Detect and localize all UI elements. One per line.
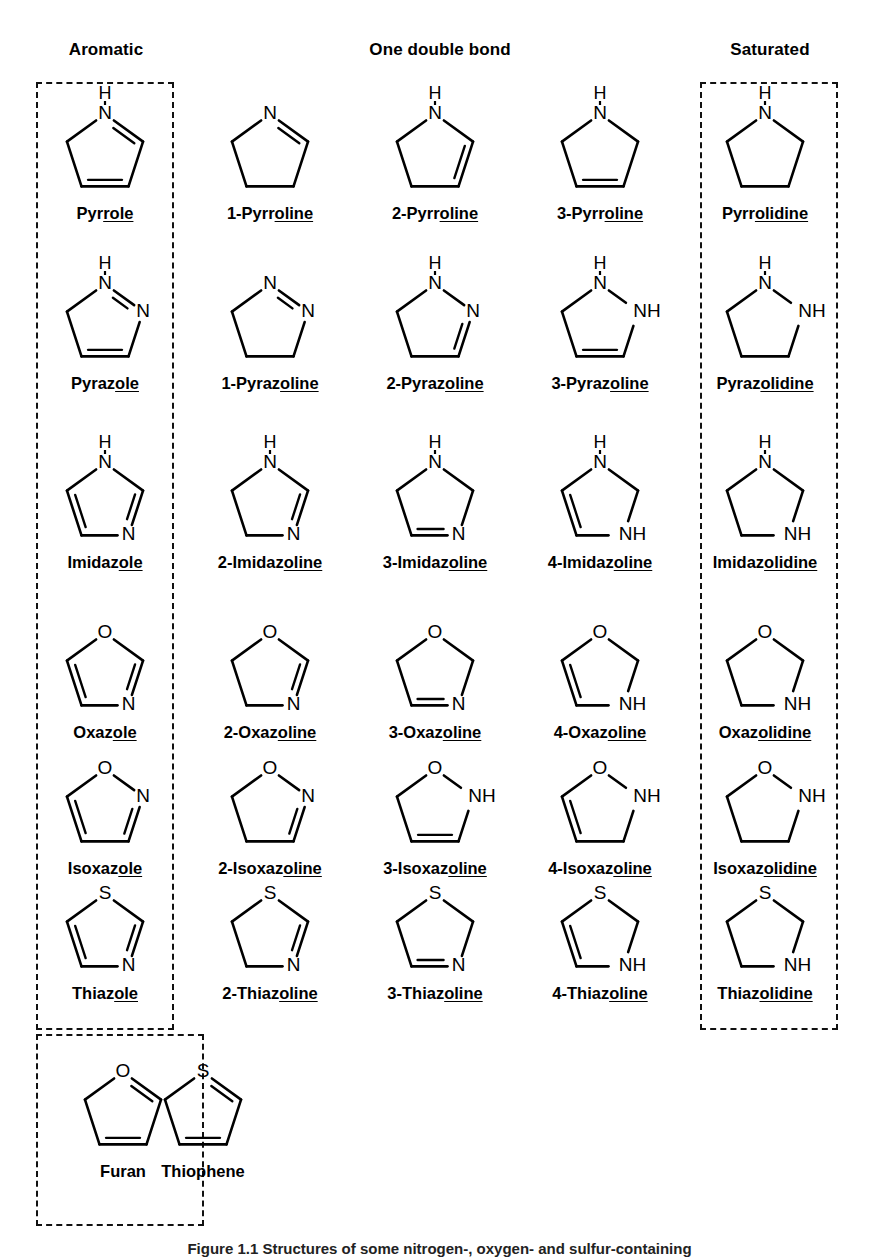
- molecule-structure-imidazole: NNH: [20, 437, 190, 555]
- bond-v4-v5: [232, 142, 247, 187]
- bond-v4-v5: [85, 1100, 100, 1145]
- bond-v2-v3: [459, 811, 469, 841]
- bond-v2-v3: [292, 491, 308, 525]
- name-prefix: 3-Thiaz: [387, 984, 444, 1002]
- molecule-cell-imidazole: NNHImidazole: [20, 437, 190, 571]
- name-prefix: 4-Thiaz: [552, 984, 609, 1002]
- bond-v2-v3: [793, 491, 803, 521]
- atom-label-v1-n: N: [98, 451, 112, 472]
- molecule-structure-3-imidazoline: NNH: [350, 437, 520, 555]
- bond-v5-v1: [397, 469, 426, 490]
- structure-wrapper-3-pyrazoline: NNHH: [515, 258, 685, 376]
- bond-v3-v4: [81, 350, 128, 357]
- atom-label-v3-nh: NH: [784, 693, 811, 714]
- bond-v5-v1: [727, 900, 756, 921]
- atom-label-v2-nh: NH: [633, 785, 660, 806]
- bond-v5-v1: [562, 639, 591, 660]
- name-underlined-suffix: ole: [114, 984, 138, 1002]
- molecule-name-2-oxazoline: 2-Oxazoline: [185, 723, 355, 741]
- structure-wrapper-3-imidazoline: NNH: [350, 437, 520, 555]
- name-prefix: 3-Imidaz: [383, 553, 449, 571]
- bond-v2-v3: [624, 326, 634, 356]
- molecule-cell-isoxazolidine: ONHIsoxazolidine: [680, 743, 850, 877]
- bond-v4-v5: [727, 922, 742, 967]
- bond-v4-v5: [562, 797, 581, 842]
- name-underlined-suffix: oline: [445, 374, 484, 392]
- molecule-cell-3-isoxazoline: ONH3-Isoxazoline: [350, 743, 520, 877]
- atom-label-hydrogen-top: H: [429, 253, 442, 273]
- atom-label-hydrogen-top: H: [429, 432, 442, 452]
- bond-v2-v3: [127, 922, 143, 956]
- molecule-cell-pyrazolidine: NNHHPyrazolidine: [680, 258, 850, 392]
- molecule-cell-2-oxazoline: ON2-Oxazoline: [185, 607, 355, 741]
- molecule-structure-3-oxazoline: ON: [350, 607, 520, 725]
- structure-wrapper-pyrazole: NNH: [20, 258, 190, 376]
- molecule-name-2-pyrazoline: 2-Pyrazoline: [350, 374, 520, 392]
- atom-label-v1-n: N: [428, 451, 442, 472]
- atom-label-hydrogen-top: H: [594, 83, 607, 103]
- molecule-cell-pyrrolidine: NHPyrrolidine: [680, 88, 850, 222]
- bond-v4-v5: [67, 661, 86, 706]
- atom-label-v3-n: N: [452, 523, 466, 544]
- molecule-structure-oxazole: ON: [20, 607, 190, 725]
- bond-v1-v2: [278, 290, 299, 308]
- molecule-structure-thiazolidine: SNH: [680, 868, 850, 986]
- name-prefix: 3-Pyrr: [557, 204, 605, 222]
- name-underlined-suffix: olidine: [764, 553, 817, 571]
- structure-wrapper-oxazolidine: ONH: [680, 607, 850, 725]
- molecule-cell-4-thiazoline: SNH4-Thiazoline: [515, 868, 685, 1002]
- molecule-name-4-thiazoline: 4-Thiazoline: [515, 984, 685, 1002]
- name-prefix: 4-Oxaz: [554, 723, 608, 741]
- molecule-structure-3-pyrazoline: NNHH: [515, 258, 685, 376]
- bond-v5-v1: [232, 290, 261, 311]
- atom-label-v2-n: N: [466, 300, 480, 321]
- structure-wrapper-2-pyrazoline: NNH: [350, 258, 520, 376]
- name-underlined-suffix: oline: [605, 204, 644, 222]
- bond-v4-v5: [232, 922, 247, 967]
- bond-v5-v1: [562, 120, 591, 141]
- molecule-cell-2-imidazoline: NNH2-Imidazoline: [185, 437, 355, 571]
- molecule-cell-3-oxazoline: ON3-Oxazoline: [350, 607, 520, 741]
- atom-label-v3-nh: NH: [619, 523, 646, 544]
- name-underlined-suffix: oline: [275, 204, 314, 222]
- molecule-name-2-pyrroline: 2-Pyrroline: [350, 204, 520, 222]
- bond-v3-v4: [81, 180, 128, 187]
- bond-v2-v3: [289, 807, 304, 841]
- molecule-name-3-pyrroline: 3-Pyrroline: [515, 204, 685, 222]
- name-prefix: 3-Oxaz: [389, 723, 443, 741]
- column-header-one-double-bond: One double bond: [330, 40, 550, 60]
- atom-label-v3-n: N: [452, 954, 466, 975]
- bond-v1-v2: [774, 900, 803, 921]
- name-underlined-suffix: oline: [440, 204, 479, 222]
- bond-v1-v2: [774, 120, 803, 141]
- bond-v5-v1: [232, 639, 261, 660]
- name-prefix: Pyraz: [716, 374, 760, 392]
- bond-v5-v1: [397, 775, 426, 796]
- bond-v4-v5: [397, 661, 412, 706]
- bond-v2-v3: [294, 142, 309, 187]
- structure-wrapper-imidazole: NNH: [20, 437, 190, 555]
- atom-label-v1-o: O: [428, 757, 443, 778]
- name-prefix: 2-Imidaz: [218, 553, 284, 571]
- bond-v2-v3: [227, 1100, 242, 1145]
- atom-label-hydrogen-top: H: [264, 432, 277, 452]
- molecule-cell-oxazole: ONOxazole: [20, 607, 190, 741]
- bond-v3-v4: [411, 960, 447, 966]
- bond-v2-v3: [793, 661, 803, 691]
- name-underlined-suffix: olidine: [760, 984, 813, 1002]
- atom-label-v3-nh: NH: [784, 954, 811, 975]
- atom-label-v1-n: N: [98, 272, 112, 293]
- atom-label-v1-n: N: [758, 451, 772, 472]
- molecule-name-3-oxazoline: 3-Oxazoline: [350, 723, 520, 741]
- atom-label-v1-n: N: [758, 272, 772, 293]
- name-underlined-suffix: oline: [614, 553, 653, 571]
- atom-label-v3-n: N: [287, 523, 301, 544]
- name-prefix: Oxaz: [73, 723, 112, 741]
- structure-wrapper-1-pyrazoline: NN: [185, 258, 355, 376]
- atom-label-v1-o: O: [263, 757, 278, 778]
- atom-label-v1-n: N: [263, 272, 277, 293]
- bond-v4-v5: [562, 661, 581, 706]
- bond-v1-v2: [444, 120, 473, 141]
- name-underlined-suffix: ole: [113, 723, 137, 741]
- atom-label-hydrogen-top: H: [759, 83, 772, 103]
